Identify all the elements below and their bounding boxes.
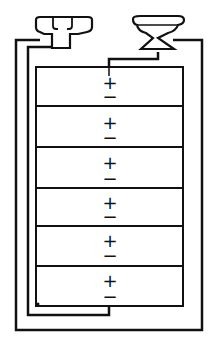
cell-3-minus: − bbox=[36, 170, 184, 188]
cell-1-minus: − bbox=[36, 88, 184, 106]
cell-5-minus: − bbox=[36, 247, 184, 265]
cell-6-minus: − bbox=[36, 288, 184, 306]
cell-4-minus: − bbox=[36, 208, 184, 226]
cell-2-minus: − bbox=[36, 129, 184, 147]
inner-wire-right bbox=[109, 52, 158, 67]
negative-terminal-icon bbox=[36, 17, 92, 48]
positive-terminal-icon bbox=[133, 16, 184, 49]
